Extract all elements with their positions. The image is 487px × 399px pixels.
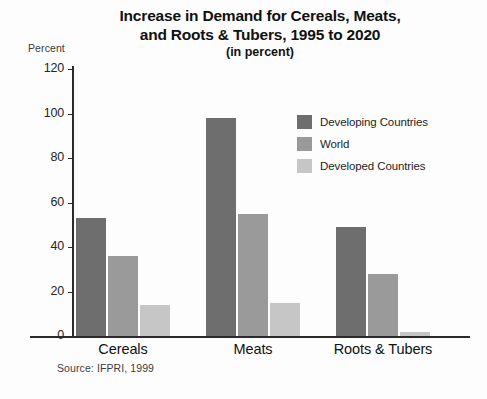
y-tick-label: 80 — [24, 150, 64, 164]
chart-legend: Developing CountriesWorldDeveloped Count… — [297, 112, 428, 178]
source-note: Source: IFPRI, 1999 — [57, 362, 154, 374]
y-tick-label: 120 — [24, 61, 64, 75]
x-axis-line — [30, 336, 470, 338]
x-tick-label: Roots & Tubers — [301, 341, 465, 357]
y-tick-label: 20 — [24, 284, 64, 298]
bar — [108, 256, 138, 336]
bar — [238, 214, 268, 336]
chart-figure: Increase in Demand for Cereals, Meats, a… — [0, 0, 487, 399]
bar — [368, 274, 398, 336]
y-tick-label: 100 — [24, 106, 64, 120]
bar — [400, 332, 430, 336]
legend-item: Developing Countries — [297, 112, 428, 132]
y-tick-mark — [68, 114, 73, 115]
y-tick-mark — [68, 336, 73, 337]
y-tick-mark — [68, 69, 73, 70]
y-axis-line — [72, 66, 74, 337]
bar — [336, 227, 366, 336]
legend-label: World — [320, 138, 349, 150]
y-tick-mark — [68, 247, 73, 248]
y-tick-label: 40 — [24, 239, 64, 253]
y-tick-mark — [68, 158, 73, 159]
y-tick-label: 0 — [24, 328, 64, 342]
legend-swatch-icon — [297, 159, 312, 173]
legend-swatch-icon — [297, 115, 312, 129]
legend-label: Developing Countries — [320, 116, 428, 128]
plot-area: 120100806040200 CerealsMeatsRoots & Tube… — [0, 0, 487, 399]
bar — [140, 305, 170, 336]
legend-item: Developed Countries — [297, 156, 428, 176]
legend-item: World — [297, 134, 428, 154]
legend-swatch-icon — [297, 137, 312, 151]
bar — [76, 218, 106, 336]
legend-label: Developed Countries — [320, 160, 426, 172]
y-tick-label: 60 — [24, 195, 64, 209]
y-tick-mark — [68, 292, 73, 293]
bar — [206, 118, 236, 336]
bar — [270, 303, 300, 336]
y-tick-mark — [68, 203, 73, 204]
